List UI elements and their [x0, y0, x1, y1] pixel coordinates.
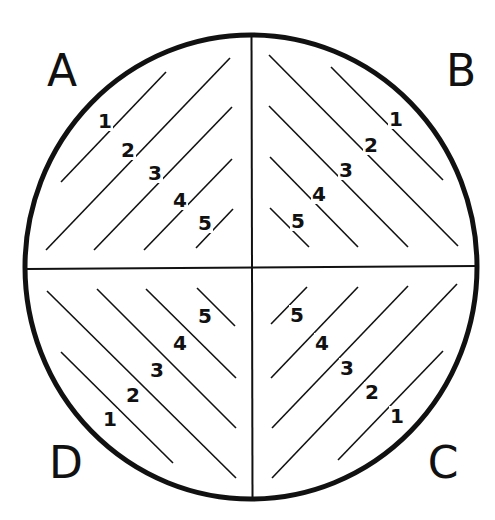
line-label-a-3: 3	[148, 161, 162, 185]
line-label-d-4: 4	[173, 331, 187, 355]
line-label-a-5: 5	[198, 211, 212, 235]
line-label-d-1: 1	[103, 407, 117, 431]
line-label-b-3: 3	[339, 158, 353, 182]
line-label-c-3: 3	[340, 356, 354, 380]
line-label-c-4: 4	[315, 331, 329, 355]
line-label-b-5: 5	[291, 209, 305, 233]
quadrant-diagram: 12345123451234512345 A B C D	[0, 0, 495, 520]
line-label-a-2: 2	[121, 138, 135, 162]
line-label-b-2: 2	[364, 133, 378, 157]
line-label-d-3: 3	[150, 358, 164, 382]
line-label-d-5: 5	[198, 304, 212, 328]
quadrant-letter-b: B	[446, 45, 476, 96]
line-label-d-2: 2	[126, 383, 140, 407]
diagram-canvas: 12345123451234512345 A B C D	[0, 0, 495, 520]
line-label-b-1: 1	[389, 107, 403, 131]
quadrant-letter-a: A	[47, 45, 77, 96]
line-label-a-1: 1	[98, 109, 112, 133]
line-label-a-4: 4	[173, 188, 187, 212]
line-label-c-1: 1	[390, 404, 404, 428]
quadrant-letter-c: C	[428, 437, 459, 488]
line-label-c-2: 2	[365, 380, 379, 404]
quadrant-letter-d: D	[49, 437, 83, 488]
line-label-b-4: 4	[312, 182, 326, 206]
line-label-c-5: 5	[290, 303, 304, 327]
